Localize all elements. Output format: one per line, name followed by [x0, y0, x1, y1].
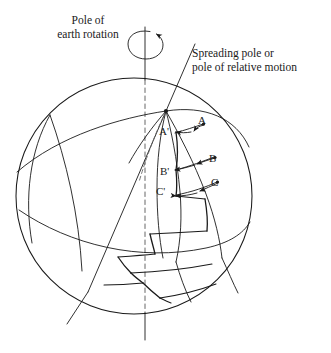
- transform-fault-3: [118, 254, 155, 257]
- lower-great-circle-arc: [19, 210, 250, 253]
- transform-fault-5: [104, 283, 143, 285]
- spreading-pole-axis-outer-lower: [67, 292, 88, 324]
- diagram-page: Pole of earth rotation Spreading pole or…: [0, 0, 331, 353]
- ridge-segment-2: [176, 170, 177, 196]
- ridge-segment-3: [205, 199, 207, 231]
- rotation-pole-label-line2: earth rotation: [38, 28, 138, 42]
- point-label-b: B: [209, 152, 216, 164]
- meridian-arc-left: [29, 115, 50, 243]
- spreading-pole-label-line2: pole of relative motion: [192, 61, 297, 75]
- ridge-segment-8: [160, 298, 171, 303]
- spreading-pole-label-line1: Spreading pole or: [192, 47, 297, 61]
- ridge-segment-1: [176, 132, 178, 170]
- velocity-arrow-A-prime: [176, 132, 191, 133]
- eastern-plate-boundary: [222, 258, 238, 293]
- meridian-arc-second: [50, 115, 82, 271]
- rotation-pole-label-line1: Pole of: [38, 14, 138, 28]
- point-label-c-prime: C': [156, 185, 165, 197]
- spreading-pole-axis-outer-upper: [166, 44, 195, 111]
- spreading-pole-label: Spreading pole or pole of relative motio…: [192, 47, 297, 74]
- point-label-a-prime: A': [159, 125, 169, 137]
- transform-fault-4: [131, 264, 212, 273]
- velocity-arrow-B-prime: [175, 165, 195, 170]
- ridge-segment-5: [118, 257, 131, 273]
- ridge-segment-4: [150, 234, 155, 254]
- point-label-b-prime: B': [160, 165, 169, 177]
- sphere-outline: [16, 78, 252, 314]
- point-label-a: A: [198, 114, 206, 126]
- point-label-c: C: [211, 176, 218, 188]
- ridge-segment-7: [143, 283, 160, 298]
- rotation-pole-label: Pole of earth rotation: [38, 14, 138, 41]
- ridge-segment-6: [131, 273, 143, 283]
- transform-fault-2: [150, 231, 207, 234]
- spreading-pole-node-marker: [164, 109, 168, 113]
